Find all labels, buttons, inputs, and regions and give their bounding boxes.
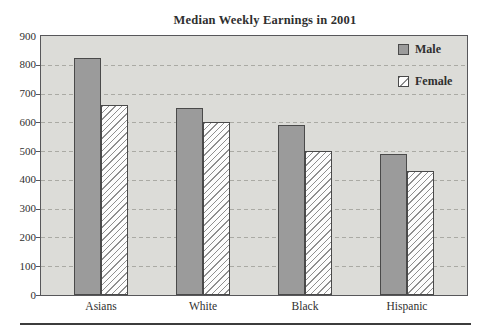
y-tick-label-900: 900 xyxy=(2,30,36,43)
y-tick-label-500: 500 xyxy=(2,145,36,158)
y-tick-label-300: 300 xyxy=(2,202,36,215)
legend-male-swatch-icon xyxy=(398,44,409,55)
y-tick-mark-400 xyxy=(36,180,40,181)
legend-row-male: Male xyxy=(398,43,452,56)
bar-chart-figure: Median Weekly Earnings in 2001 Male Fema… xyxy=(0,0,486,334)
plot-area: Male Female xyxy=(40,35,468,296)
bar-male-white xyxy=(176,108,203,295)
x-category-label-white: White xyxy=(189,299,217,313)
bar-female-hispanic xyxy=(407,171,434,295)
legend-male-label: Male xyxy=(415,43,441,56)
chart-title: Median Weekly Earnings in 2001 xyxy=(174,13,357,28)
x-category-label-asians: Asians xyxy=(85,299,116,313)
y-tick-mark-0 xyxy=(36,295,40,296)
legend-female-label: Female xyxy=(415,75,452,88)
legend-row-female: Female xyxy=(398,75,452,88)
y-tick-label-700: 700 xyxy=(2,87,36,100)
x-category-label-hispanic: Hispanic xyxy=(387,299,428,313)
bar-male-black xyxy=(278,125,305,295)
y-tick-label-600: 600 xyxy=(2,116,36,129)
y-tick-mark-700 xyxy=(36,94,40,95)
y-tick-mark-600 xyxy=(36,122,40,123)
gridline-800 xyxy=(41,65,467,66)
legend: Male Female xyxy=(398,43,452,107)
x-category-label-black: Black xyxy=(292,299,319,313)
y-tick-label-0: 0 xyxy=(2,289,36,302)
y-tick-label-200: 200 xyxy=(2,231,36,244)
y-tick-label-100: 100 xyxy=(2,260,36,273)
bar-female-white xyxy=(203,122,230,295)
y-tick-mark-800 xyxy=(36,65,40,66)
bar-male-asians xyxy=(74,58,101,295)
bar-male-hispanic xyxy=(380,154,407,295)
bar-female-black xyxy=(305,151,332,295)
gridline-700 xyxy=(41,94,467,95)
y-tick-mark-100 xyxy=(36,266,40,267)
y-tick-label-800: 800 xyxy=(2,58,36,71)
y-tick-mark-200 xyxy=(36,237,40,238)
bottom-rule xyxy=(20,323,471,325)
y-tick-mark-500 xyxy=(36,151,40,152)
y-tick-mark-300 xyxy=(36,209,40,210)
bar-female-asians xyxy=(101,105,128,295)
legend-female-swatch-icon xyxy=(398,76,409,87)
y-tick-label-400: 400 xyxy=(2,173,36,186)
